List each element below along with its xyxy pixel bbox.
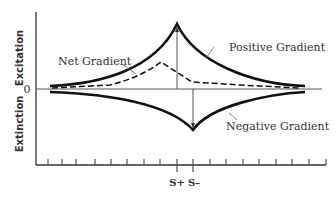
- s-plus-label: S+: [169, 177, 185, 188]
- excitation-axis-label: Excitation: [14, 30, 25, 86]
- net-gradient-label: Net Gradient: [58, 55, 132, 68]
- negative-gradient-label: Negative Gradient: [226, 120, 330, 133]
- negative-leader: [229, 113, 237, 120]
- extinction-axis-label: Extinction: [14, 96, 25, 153]
- x-ticks: [48, 159, 309, 165]
- positive-leader: [206, 47, 214, 58]
- gradient-diagram: Net Gradient Positive Gradient Negative …: [0, 0, 336, 200]
- s-minus-label: S–: [188, 177, 200, 188]
- positive-gradient-label: Positive Gradient: [229, 41, 326, 54]
